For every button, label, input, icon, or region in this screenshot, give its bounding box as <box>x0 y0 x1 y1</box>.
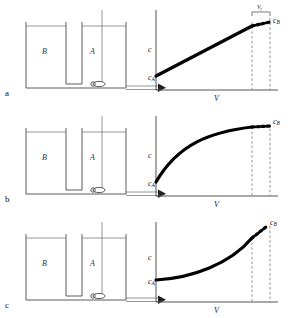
concentration-curve <box>156 238 252 280</box>
ca-label: cA <box>148 277 156 286</box>
vessel-divider <box>66 128 82 190</box>
ca-label: cA <box>148 179 156 188</box>
apparatus-b: B A <box>14 114 138 204</box>
panel-label-b: b <box>5 194 10 204</box>
panel-label-a: a <box>5 88 9 98</box>
chamber-label-B: B <box>42 47 47 56</box>
x-axis-label: V <box>214 200 220 209</box>
chamber-label-B: B <box>42 153 47 162</box>
concentration-curve-extrapolated <box>252 22 270 26</box>
panel-label-c: c <box>5 300 9 310</box>
vessel-outer-wall <box>26 22 126 88</box>
vessel-outer-wall <box>26 234 126 300</box>
y-axis-label: c <box>148 45 152 54</box>
panel-a: a B A Vf <box>0 0 289 106</box>
cb-label: cB <box>273 16 281 25</box>
chart-axes <box>156 10 278 90</box>
x-axis-label: V <box>214 94 220 103</box>
figure-root: a B A Vf <box>0 0 289 318</box>
x-axis-label: V <box>214 306 220 315</box>
chart-b: c V cA cB <box>148 110 286 208</box>
vessel-divider <box>66 234 82 296</box>
y-axis-label: c <box>148 151 152 160</box>
cb-label: cB <box>270 218 278 227</box>
vessel-divider <box>66 22 82 84</box>
panel-b: b B A c <box>0 106 289 212</box>
concentration-curve <box>156 26 252 76</box>
chamber-label-A: A <box>89 153 95 162</box>
concentration-curve-extrapolated <box>252 227 266 238</box>
chamber-label-A: A <box>89 259 95 268</box>
cb-label: cB <box>273 117 281 126</box>
concentration-curve <box>156 127 252 182</box>
vf-bracket-label: Vf <box>257 4 262 11</box>
chamber-label-B: B <box>42 259 47 268</box>
apparatus-a: B A <box>14 8 138 98</box>
y-axis-label: c <box>148 253 152 262</box>
chart-c: c V cA cB <box>148 216 286 314</box>
vf-bracket <box>252 12 270 16</box>
chamber-label-A: A <box>89 47 95 56</box>
apparatus-c: B A <box>14 220 138 310</box>
concentration-curve-extrapolated <box>252 126 270 127</box>
vessel-outer-wall <box>26 128 126 194</box>
panel-c: c B A c <box>0 212 289 318</box>
ca-label: cA <box>148 73 156 82</box>
chart-a: Vf c V cA cB <box>148 4 286 102</box>
chart-axes <box>156 222 278 302</box>
